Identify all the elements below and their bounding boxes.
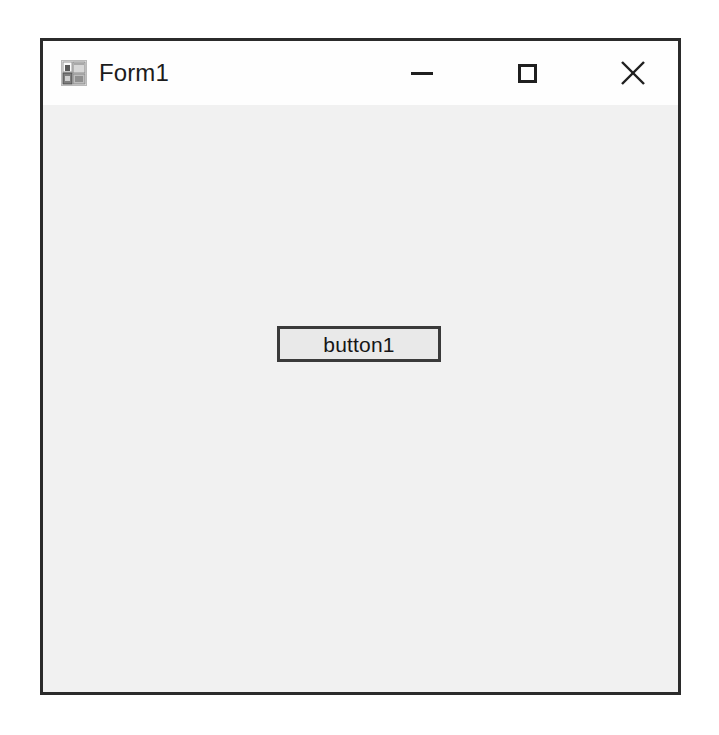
minimize-icon <box>411 72 433 75</box>
title-bar[interactable]: Form1 <box>43 41 678 105</box>
button1[interactable]: button1 <box>277 326 441 362</box>
window-title: Form1 <box>99 61 169 85</box>
minimize-button[interactable] <box>380 41 464 105</box>
form1-window: Form1 button1 <box>40 38 681 695</box>
close-button[interactable] <box>591 41 675 105</box>
close-icon <box>620 60 646 86</box>
form-client-area: button1 <box>43 105 678 692</box>
winforms-designer-icon <box>61 60 87 86</box>
maximize-button[interactable] <box>485 41 569 105</box>
maximize-icon <box>518 64 537 83</box>
